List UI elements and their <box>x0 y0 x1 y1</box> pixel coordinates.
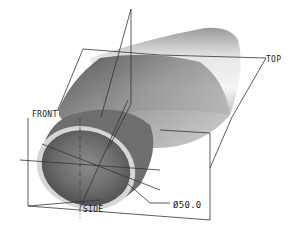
diameter-dimension[interactable]: Ø50.0 <box>173 201 202 210</box>
datum-label-top[interactable]: TOP <box>266 56 281 64</box>
datum-label-side[interactable]: SIDE <box>83 206 103 214</box>
model-viewport[interactable]: FRONT TOP SIDE Ø50.0 <box>0 0 291 237</box>
datum-label-front[interactable]: FRONT <box>31 111 59 119</box>
